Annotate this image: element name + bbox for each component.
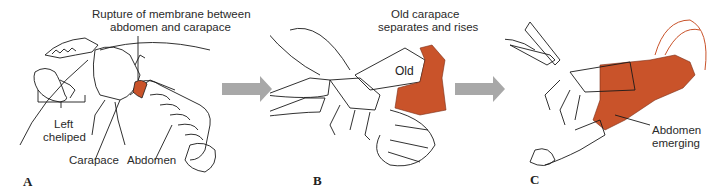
panel-a: Rupture of membrane between abdomen and … [0,0,225,191]
label-abdomen-emerging-line2: emerging [652,137,700,150]
label-rupture-line1: Rupture of membrane between [92,8,251,21]
panel-c: Abdomen emerging C [505,0,713,191]
label-old: Old [395,64,414,78]
label-abdomen: Abdomen [127,154,176,167]
label-old-carapace-line2: separates and rises [378,21,478,34]
label-rupture-line2: abdomen and carapace [110,21,231,34]
lobster-illustration-c [505,0,713,191]
label-cheliped-line2: cheliped [43,131,86,144]
right-arrow-icon [222,74,274,104]
panel-b: Old carapace separates and rises Old New… [270,0,450,191]
label-abdomen-emerging-line1: Abdomen [652,124,701,137]
label-carapace: Carapace [69,154,119,167]
label-old-carapace-line1: Old carapace [391,8,459,21]
label-cheliped-line1: Left [54,118,73,131]
panel-letter-a: A [23,174,32,190]
right-arrow-icon [455,74,507,104]
panel-letter-b: B [313,173,322,189]
panel-letter-c: C [530,172,539,188]
